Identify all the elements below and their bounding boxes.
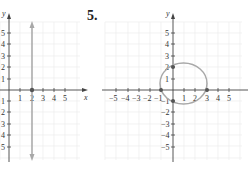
left-grid (0, 22, 80, 160)
svg-text:−4: −4 (121, 94, 130, 103)
svg-text:5: 5 (1, 29, 5, 38)
svg-text:3: 3 (1, 52, 5, 61)
svg-text:1: 1 (1, 75, 5, 84)
svg-text:−5: −5 (109, 94, 118, 103)
point-2-0 (30, 88, 34, 92)
left-y-arrow-icon (7, 13, 11, 19)
problem-number: 5. (87, 8, 98, 23)
svg-text:5: 5 (1, 143, 5, 152)
left-x-arrow-icon (82, 88, 88, 92)
svg-text:−4: −4 (161, 131, 170, 140)
svg-text:3: 3 (205, 94, 209, 103)
svg-text:5: 5 (63, 94, 67, 103)
left-y-label: y (1, 9, 6, 18)
right-graph: y −5 −4 −3 −2 −1 1 2 3 4 5 (102, 9, 248, 162)
right-y-label: y (165, 9, 170, 18)
svg-text:4: 4 (165, 40, 169, 49)
point-0-2 (171, 65, 175, 69)
point-0-neg1 (171, 99, 175, 103)
svg-text:5: 5 (165, 29, 169, 38)
svg-text:4: 4 (52, 94, 56, 103)
svg-text:5: 5 (227, 94, 231, 103)
svg-text:4: 4 (216, 94, 220, 103)
svg-text:1: 1 (182, 94, 186, 103)
graphs-canvas: y x 1 2 3 4 5 1 2 (0, 0, 248, 173)
svg-text:3: 3 (41, 94, 45, 103)
svg-text:−2: −2 (143, 94, 152, 103)
svg-text:3: 3 (165, 52, 169, 61)
svg-text:3: 3 (1, 120, 5, 129)
svg-text:1: 1 (1, 97, 5, 106)
point-3-0 (205, 88, 209, 92)
left-y-ticks: 1 2 3 4 5 1 2 3 4 5 (1, 29, 11, 152)
right-grid (105, 22, 242, 160)
svg-text:2: 2 (1, 63, 5, 72)
left-x-label: x (83, 93, 88, 102)
svg-text:4: 4 (1, 40, 5, 49)
svg-text:−2: −2 (161, 108, 170, 117)
svg-text:1: 1 (18, 94, 22, 103)
left-graph: y x 1 2 3 4 5 1 2 (0, 9, 88, 162)
right-y-arrow-icon (171, 13, 175, 19)
svg-text:−5: −5 (161, 143, 170, 152)
svg-text:−3: −3 (132, 94, 141, 103)
line-down-arrow-icon (30, 154, 35, 161)
svg-text:2: 2 (1, 108, 5, 117)
svg-text:4: 4 (1, 131, 5, 140)
svg-text:−3: −3 (161, 120, 170, 129)
svg-text:1: 1 (165, 75, 169, 84)
point-neg1-0 (159, 88, 163, 92)
